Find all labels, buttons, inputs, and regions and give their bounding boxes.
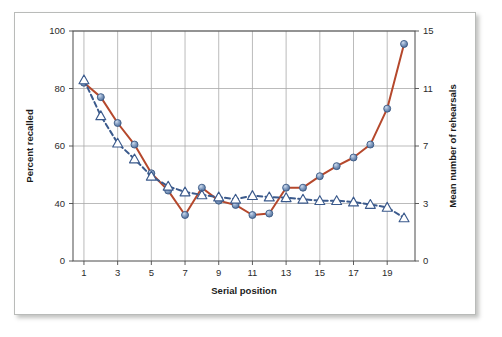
y2-tick-label: 11 [423,83,433,94]
x-axis-title: Serial position [211,285,277,296]
y-tick-label: 0 [60,255,65,266]
data-point-marker [316,173,323,180]
data-point-marker [131,141,138,148]
chart-figure: 04060801000371115135791113151719Serial p… [14,12,476,315]
x-tick-label: 11 [247,267,257,278]
data-point-marker [350,154,357,161]
y-axis-title: Percent recalled [24,109,35,183]
x-tick-label: 9 [216,267,221,278]
y2-axis-title: Mean number of rehearsals [447,84,458,208]
data-point-marker [401,40,408,47]
serial-position-curve-chart: 04060801000371115135791113151719Serial p… [15,13,475,314]
y-tick-label: 40 [54,198,65,209]
y-tick-label: 80 [54,83,65,94]
data-point-marker [266,210,273,217]
x-tick-label: 7 [182,267,187,278]
x-tick-label: 5 [149,267,154,278]
y-tick-label: 100 [49,25,65,36]
data-point-marker [333,163,340,170]
x-tick-label: 13 [281,267,292,278]
data-point-marker [182,212,189,219]
y2-tick-label: 7 [423,140,428,151]
x-tick-label: 19 [382,267,393,278]
data-point-marker [283,184,290,191]
y2-tick-label: 15 [423,25,434,36]
data-point-marker [384,105,391,112]
data-point-marker [97,94,104,101]
x-tick-label: 1 [81,267,86,278]
x-tick-label: 17 [348,267,359,278]
y2-tick-label: 3 [423,198,428,209]
data-point-marker [249,212,256,219]
data-point-marker [114,120,121,127]
y-tick-label: 60 [54,140,65,151]
data-point-marker [367,141,374,148]
chart-plot-area: 04060801000371115135791113151719Serial p… [15,13,475,314]
data-point-marker [299,184,306,191]
y2-tick-label: 0 [423,255,428,266]
x-tick-label: 15 [315,267,326,278]
x-tick-label: 3 [115,267,120,278]
